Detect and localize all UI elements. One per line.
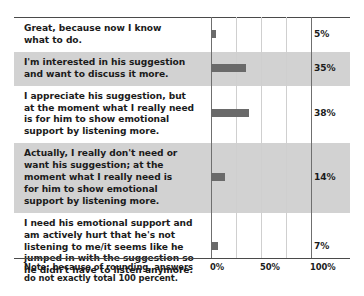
- percentage-value: 14%: [314, 172, 354, 182]
- table-row: I appreciate his suggestion, but at the …: [14, 86, 350, 144]
- answer-label: I appreciate his suggestion, but at the …: [24, 91, 208, 139]
- tick-label-50: 50%: [260, 262, 280, 272]
- percentage-value: 7%: [314, 241, 354, 251]
- answer-label: I'm interested in his suggestion and wan…: [24, 57, 208, 81]
- tick-label-0: 0%: [210, 262, 224, 272]
- chart-rows: Great, because now I know what to do.5%I…: [14, 17, 350, 282]
- answer-label: Great, because now I know what to do.: [24, 23, 208, 47]
- percentage-value: 35%: [314, 63, 354, 73]
- table-row: I'm interested in his suggestion and wan…: [14, 52, 350, 86]
- table-row: Great, because now I know what to do.5%: [14, 18, 350, 52]
- x-axis-line: [14, 258, 350, 259]
- chart-footnote: Note: because of rounding, answers do no…: [24, 262, 204, 285]
- tick-label-100: 100%: [310, 262, 336, 272]
- bar-chart-figure: Great, because now I know what to do.5%I…: [0, 0, 364, 296]
- percentage-value: 5%: [314, 29, 354, 39]
- table-row: Actually, I really don't need or want hi…: [14, 143, 350, 213]
- percentage-value: 38%: [314, 108, 354, 118]
- answer-label: Actually, I really don't need or want hi…: [24, 148, 208, 208]
